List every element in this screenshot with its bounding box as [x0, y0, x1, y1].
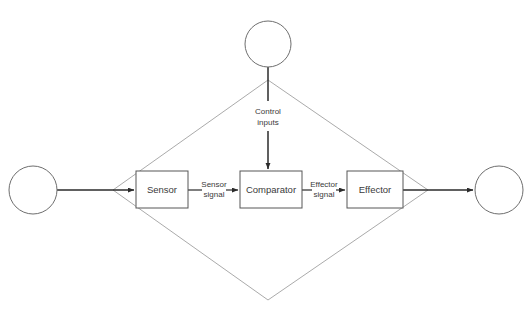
effector-signal-label: Effector signal — [310, 180, 338, 199]
control-inputs-label-line2: inputs — [257, 118, 278, 127]
comparator-label: Comparator — [246, 184, 296, 195]
diagram-canvas: Sensor Comparator Effector Sensor signal… — [0, 0, 531, 317]
control-inputs-label-line1: Control — [255, 107, 281, 116]
effector-label: Effector — [359, 184, 392, 195]
comparator-node[interactable]: Comparator — [240, 171, 302, 208]
control-inputs-label: Control inputs — [255, 107, 281, 127]
sensor-signal-label-line1: Sensor — [201, 180, 227, 189]
output-sink-circle[interactable] — [475, 166, 523, 214]
sensor-label: Sensor — [147, 184, 177, 195]
effector-node[interactable]: Effector — [347, 171, 403, 208]
input-source-circle[interactable] — [9, 166, 57, 214]
effector-signal-label-line2: signal — [314, 190, 335, 199]
sensor-node[interactable]: Sensor — [136, 171, 188, 208]
control-input-source-circle[interactable] — [245, 21, 291, 67]
control-system-diagram: Sensor Comparator Effector Sensor signal… — [0, 0, 531, 317]
effector-signal-label-line1: Effector — [310, 180, 338, 189]
sensor-signal-label: Sensor signal — [201, 180, 227, 199]
sensor-signal-label-line2: signal — [204, 190, 225, 199]
